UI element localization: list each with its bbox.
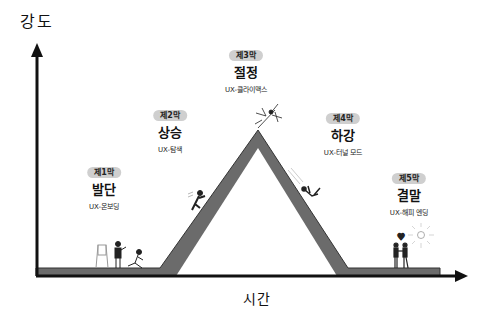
svg-text:♥: ♥	[397, 232, 405, 242]
climber-icon	[188, 191, 205, 211]
couple-sun-icon: ♥	[394, 223, 434, 268]
act-4-label: 제4막 하강 UX-터널 모드	[324, 106, 362, 157]
act-ux: UX-터널 모드	[324, 147, 362, 157]
easel-figures-icon	[96, 242, 143, 269]
y-axis-label: 강도	[20, 8, 54, 32]
act-1-label: 제1막 발단 UX-온보딩	[87, 160, 121, 211]
act-tag: 제3막	[229, 50, 263, 61]
act-ux: UX-해피 엔딩	[390, 207, 428, 217]
act-title: 절정	[225, 65, 267, 80]
act-title: 결말	[390, 188, 428, 203]
act-tag: 제5막	[392, 173, 426, 184]
y-axis-arrow-icon	[31, 43, 43, 57]
act-tag: 제4막	[326, 113, 360, 124]
act-ux: UX-온보딩	[87, 201, 121, 211]
act-3-label: 제3막 절정 UX-클라이맥스	[225, 43, 267, 94]
act-tag: 제2막	[153, 110, 187, 121]
act-2-label: 제2막 상승 UX-탐색	[153, 103, 187, 154]
act-ux: UX-탐색	[153, 144, 187, 154]
act-ux: UX-클라이맥스	[225, 84, 267, 94]
peak-figure-icon	[255, 104, 282, 128]
act-5-label: 제5막 결말 UX-해피 엔딩	[390, 166, 428, 217]
act-title: 상승	[153, 125, 187, 140]
x-axis-label: 시간	[243, 288, 271, 308]
x-axis-arrow-icon	[455, 270, 468, 282]
act-title: 하강	[324, 128, 362, 143]
act-tag: 제1막	[87, 167, 121, 178]
act-title: 발단	[87, 182, 121, 197]
